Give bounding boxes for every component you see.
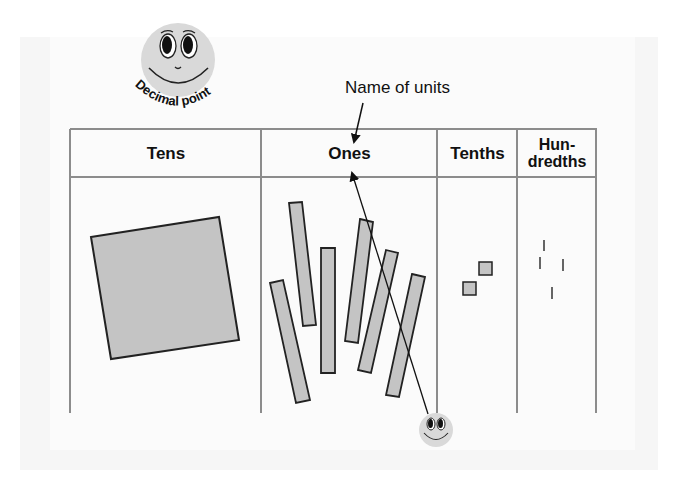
tenths-cubes [463,262,492,295]
column-header-hundredths-line1: Hun- [539,136,575,153]
ones-rod [289,202,316,326]
column-header-hundredths: Hun- dredths [518,130,596,176]
tenths-cube [463,282,476,295]
place-value-diagram: Decimal point [0,0,673,485]
ones-rods [270,202,425,403]
column-header-ones: Ones [262,130,437,176]
tens-flat-block [91,217,239,359]
column-header-tenths: Tenths [438,130,517,176]
hundredths-ticks [540,240,563,299]
ones-rod [386,274,425,397]
column-header-hundredths-line2: dredths [528,153,587,170]
tenths-cube [479,262,492,275]
ones-rod [321,248,335,373]
small-decimal-point-smiley-icon [419,413,453,447]
column-header-tens: Tens [71,130,261,176]
name-of-units-annotation: Name of units [345,78,450,98]
